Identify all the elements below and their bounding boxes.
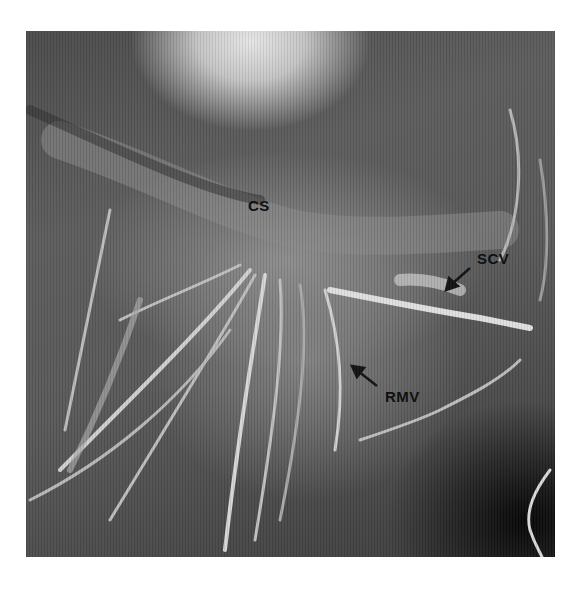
ct-image <box>26 31 555 557</box>
label-rmv: RMV <box>385 388 420 405</box>
vessel-overlay <box>26 31 555 557</box>
label-scv: SCV <box>477 250 509 267</box>
label-cs: CS <box>248 197 270 214</box>
